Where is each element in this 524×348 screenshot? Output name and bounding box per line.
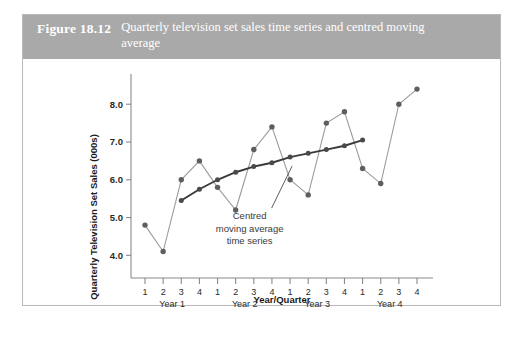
data-point: [378, 181, 383, 186]
x-axis-tick-label: 3: [324, 287, 329, 297]
y-axis-tick-label: 8.0: [110, 99, 123, 110]
moving-average-point: [251, 164, 256, 169]
moving-average-point: [324, 147, 329, 152]
annotation-line: time series: [227, 235, 273, 246]
x-axis-tick-label: 4: [342, 287, 347, 297]
data-point: [142, 222, 147, 227]
x-axis-tick-label: 1: [360, 287, 365, 297]
y-axis-tick-label: 7.0: [110, 136, 123, 147]
moving-average-point: [215, 177, 220, 182]
y-axis-tick-label: 5.0: [110, 212, 123, 223]
moving-average-point: [342, 143, 347, 148]
y-axis-tick-label: 6.0: [110, 174, 123, 185]
y-axis-tick-label: 4.0: [110, 250, 123, 261]
x-axis-tick-label: 4: [197, 287, 202, 297]
data-point: [160, 249, 165, 254]
x-axis-tick-label: 3: [396, 287, 401, 297]
moving-average-point: [179, 198, 184, 203]
quarterly-sales-line-chart: Quarterly Television Set Sales (000s) 4.…: [23, 59, 502, 307]
figure-title-label: Quarterly television set sales time seri…: [121, 20, 451, 51]
data-point: [251, 147, 256, 152]
moving-average-point: [306, 151, 311, 156]
x-axis-tick-label: 2: [233, 287, 238, 297]
x-axis-tick-label: 3: [179, 287, 184, 297]
figure-caption-band: Figure 18.12 Quarterly television set sa…: [23, 15, 500, 59]
x-axis-year-label: Year 1: [159, 299, 185, 307]
annotation-label: Centredmoving averagetime series: [216, 210, 284, 246]
chart-plot-area: Quarterly Television Set Sales (000s) 4.…: [23, 59, 500, 307]
data-point: [324, 120, 329, 125]
data-point: [306, 192, 311, 197]
moving-average-point: [233, 170, 238, 175]
data-point: [360, 166, 365, 171]
data-point: [197, 158, 202, 163]
x-axis-tick-label: 2: [161, 287, 166, 297]
data-point: [269, 124, 274, 129]
annotation-leader-line: [272, 166, 292, 208]
x-axis-ticks: [145, 278, 417, 284]
x-axis-tick-label: 1: [215, 287, 220, 297]
x-axis-year-label: Year 4: [377, 299, 403, 307]
figure-number-label: Figure 18.12: [37, 20, 111, 37]
data-point: [396, 102, 401, 107]
annotation-line: moving average: [216, 223, 284, 234]
data-point: [215, 185, 220, 190]
moving-average-point: [360, 138, 365, 143]
x-axis-tick-label: 2: [378, 287, 383, 297]
annotation-line: Centred: [233, 210, 267, 221]
data-point: [179, 177, 184, 182]
data-point: [414, 86, 419, 91]
x-axis-tick-label: 4: [414, 287, 419, 297]
moving-average-point: [269, 160, 274, 165]
data-point: [287, 177, 292, 182]
data-point: [342, 109, 347, 114]
moving-average-line: [181, 140, 362, 200]
moving-average-point: [288, 155, 293, 160]
y-axis-ticks: 4.05.06.07.08.0: [110, 99, 131, 261]
figure-container: Figure 18.12 Quarterly television set sa…: [22, 14, 501, 306]
moving-average-point: [197, 187, 202, 192]
x-axis-title: Year/Quarter: [253, 294, 310, 305]
x-axis-tick-label: 1: [142, 287, 147, 297]
y-axis-title: Quarterly Television Set Sales (000s): [88, 134, 99, 300]
